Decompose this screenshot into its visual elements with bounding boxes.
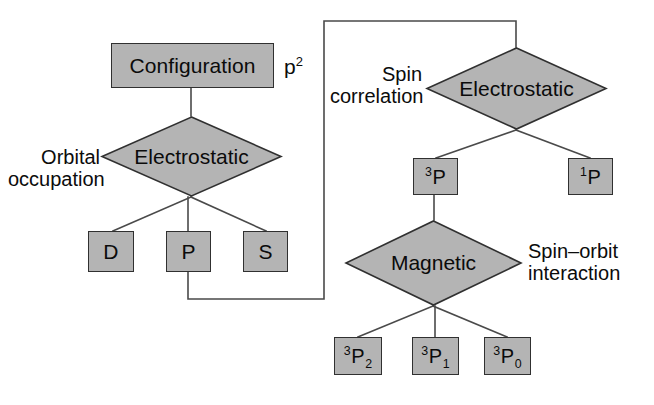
node-term-3p2[interactable]: 3P2	[334, 337, 382, 375]
annotation-spin-orbit-interaction: Spin–orbit interaction	[528, 240, 652, 285]
wire-electrostatic-left-to-d	[113, 197, 191, 231]
node-term-3p1-j: 1	[443, 357, 450, 371]
node-term-3p-symbol: P	[433, 166, 446, 188]
configuration-superscript: p2	[284, 56, 303, 77]
diamond-shape	[345, 220, 522, 306]
node-term-3p-label: 3P	[425, 167, 446, 187]
node-configuration-label: Configuration	[129, 55, 255, 76]
node-term-1p[interactable]: 1P	[568, 158, 613, 195]
wire-electrostatic-left-to-s	[191, 197, 266, 231]
node-term-3p1-symbol: P	[429, 345, 442, 367]
node-term-s-label: S	[258, 241, 272, 262]
node-term-3p0[interactable]: 3P0	[484, 337, 531, 375]
diagram-canvas: Configuration p2 Electrostatic Orbital o…	[0, 0, 654, 405]
node-term-s[interactable]: S	[243, 231, 288, 272]
node-electrostatic-left[interactable]: Electrostatic	[101, 116, 282, 197]
node-term-p-label: P	[181, 241, 195, 262]
annotation-spin-correlation: Spin correlation	[330, 63, 422, 108]
node-configuration[interactable]: Configuration	[111, 43, 274, 88]
diamond-shape	[426, 47, 607, 130]
node-term-3p[interactable]: 3P	[413, 158, 458, 195]
node-term-d-label: D	[103, 241, 118, 262]
node-term-1p-label: 1P	[580, 167, 601, 187]
configuration-superscript-base: p	[284, 55, 296, 78]
diamond-shape	[101, 116, 282, 197]
node-term-1p-symbol: P	[588, 166, 601, 188]
wire-electrostatic-right-to-1p	[516, 130, 590, 158]
configuration-superscript-exponent: 2	[296, 54, 303, 69]
node-term-3p0-symbol: P	[501, 345, 514, 367]
annotation-orbital-occupation: Orbital occupation	[8, 146, 100, 191]
node-term-3p0-j: 0	[515, 357, 522, 371]
node-term-3p2-multiplicity: 3	[344, 344, 351, 358]
node-term-p[interactable]: P	[166, 231, 211, 272]
node-term-3p0-multiplicity: 3	[493, 344, 500, 358]
wire-magnetic-to-3p2	[358, 306, 433, 337]
node-term-3p1-label: 3P1	[421, 346, 449, 366]
node-term-3p0-label: 3P0	[493, 346, 521, 366]
node-term-3p-multiplicity: 3	[425, 165, 432, 179]
node-term-3p1[interactable]: 3P1	[412, 337, 459, 375]
node-term-1p-multiplicity: 1	[580, 165, 587, 179]
node-term-3p2-symbol: P	[351, 345, 364, 367]
node-term-d[interactable]: D	[88, 231, 134, 272]
wire-electrostatic-right-to-3p	[436, 130, 516, 158]
node-term-3p2-j: 2	[365, 357, 372, 371]
node-term-3p1-multiplicity: 3	[421, 344, 428, 358]
node-term-3p2-label: 3P2	[344, 346, 372, 366]
wire-magnetic-to-3p0	[433, 306, 507, 337]
node-electrostatic-right[interactable]: Electrostatic	[426, 47, 607, 130]
node-magnetic[interactable]: Magnetic	[345, 220, 522, 306]
